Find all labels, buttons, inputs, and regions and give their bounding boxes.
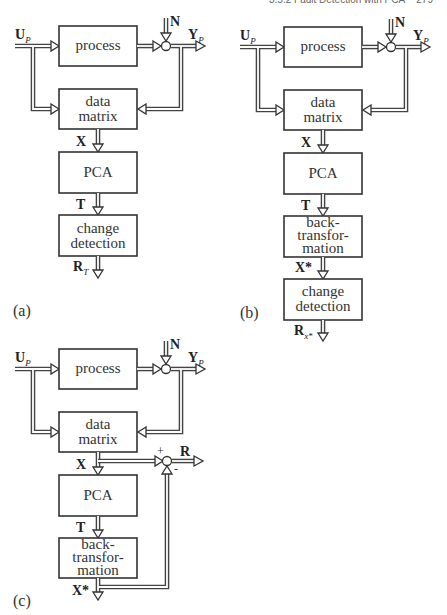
signal-input-b: UP — [240, 28, 256, 46]
panel-label-c: (c) — [13, 592, 31, 610]
signal-t-a: T — [76, 197, 85, 213]
block-pca-c: PCA — [59, 488, 137, 503]
panel-label-a: (a) — [13, 302, 31, 320]
block-process-a: process — [59, 38, 137, 53]
block-data-matrix-c: data matrix — [59, 417, 137, 447]
block-pca-a: PCA — [59, 165, 137, 180]
block-diagrams — [0, 0, 447, 615]
block-process-c: process — [59, 361, 137, 376]
signal-input-c: UP — [15, 350, 31, 368]
signal-xstar-b: X* — [295, 260, 312, 276]
panel-label-b: (b) — [240, 304, 259, 322]
sign-plus: + — [157, 444, 164, 459]
signal-residual: R — [180, 444, 190, 460]
signal-x-a: X — [76, 134, 86, 150]
block-back-transformation-c: back- transfor- mation — [59, 538, 137, 577]
signal-xstar-c: X* — [72, 583, 89, 599]
block-change-detection-a: change detection — [59, 221, 137, 251]
signal-residual-x: Rx* — [294, 323, 313, 341]
signal-output-b: YP — [413, 28, 429, 46]
signal-noise-a: N — [170, 14, 180, 30]
block-process-b: process — [284, 39, 362, 54]
signal-t-c: T — [76, 520, 85, 536]
signal-output-a: YP — [188, 27, 204, 45]
block-data-matrix-b: data matrix — [284, 95, 362, 125]
signal-input-a: UP — [15, 27, 31, 45]
signal-residual-t: RT — [73, 259, 88, 277]
sign-minus: - — [174, 462, 178, 477]
block-data-matrix-a: data matrix — [59, 94, 137, 124]
signal-x-b: X — [301, 135, 311, 151]
block-back-transformation-b: back- transfor- mation — [284, 216, 362, 255]
signal-t-b: T — [301, 198, 310, 214]
signal-noise-b: N — [395, 15, 405, 31]
block-change-detection-b: change detection — [284, 284, 362, 314]
block-pca-b: PCA — [284, 166, 362, 181]
signal-output-c: YP — [188, 350, 204, 368]
signal-noise-c: N — [170, 337, 180, 353]
signal-x-c: X — [76, 457, 86, 473]
